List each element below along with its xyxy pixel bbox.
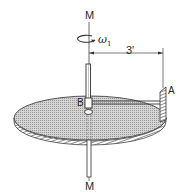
- rotation-arrow-icon: [78, 35, 95, 42]
- point-b-label: B: [77, 98, 84, 108]
- angular-velocity-label: ω1: [98, 34, 111, 48]
- shaft-lower: [87, 140, 91, 181]
- mechanism-diagram: [0, 0, 183, 193]
- bracket-a: [160, 87, 166, 122]
- axis-label-top: M: [85, 10, 94, 21]
- point-a-label: A: [168, 86, 175, 96]
- omega-symbol: ω: [98, 33, 107, 46]
- axis-label-bottom: M: [85, 181, 94, 192]
- shaft-upper: [86, 64, 91, 100]
- dimension-label: 3′: [126, 45, 134, 56]
- omega-subscript: 1: [107, 40, 111, 48]
